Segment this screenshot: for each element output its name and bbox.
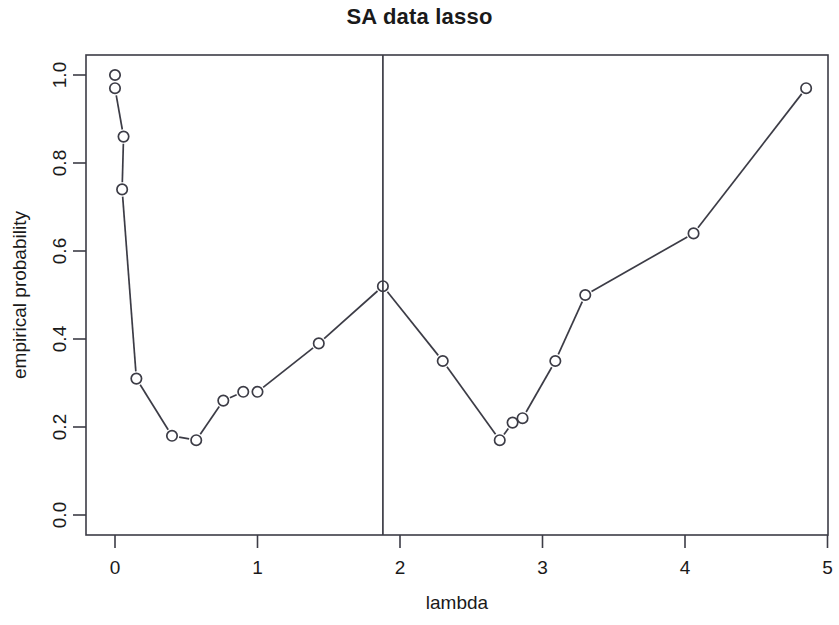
series-segment xyxy=(116,95,122,129)
data-point-marker xyxy=(801,83,811,93)
data-point-marker xyxy=(110,83,120,93)
series-segment xyxy=(387,292,438,356)
x-axis-label: lambda xyxy=(426,592,489,613)
data-point-marker xyxy=(110,70,120,80)
data-series xyxy=(110,70,812,446)
x-axis-ticks: 012345 xyxy=(110,535,833,578)
data-point-marker xyxy=(438,356,448,366)
x-tick-label: 1 xyxy=(252,557,263,578)
data-point-marker xyxy=(252,387,262,397)
series-segment xyxy=(200,407,219,435)
series-segment xyxy=(324,291,377,339)
plot-area: 012345 0.00.20.40.60.81.0 lambda empiric… xyxy=(0,0,839,625)
series-segment xyxy=(122,144,123,182)
x-tick-label: 2 xyxy=(395,557,406,578)
series-segment xyxy=(140,385,168,430)
series-segment xyxy=(526,367,552,412)
data-point-marker xyxy=(167,431,177,441)
series-segment xyxy=(263,348,313,387)
data-point-marker xyxy=(191,435,201,445)
x-tick-label: 4 xyxy=(680,557,691,578)
series-segment xyxy=(230,395,237,398)
data-point-marker xyxy=(238,387,248,397)
data-point-marker xyxy=(517,413,527,423)
plot-frame xyxy=(86,55,828,535)
y-axis-label: empirical probability xyxy=(9,211,30,379)
x-tick-label: 3 xyxy=(537,557,548,578)
data-point-marker xyxy=(580,290,590,300)
data-point-marker xyxy=(131,373,141,383)
series-segment xyxy=(447,367,496,435)
y-tick-label: 0.4 xyxy=(49,325,70,352)
y-axis-ticks: 0.00.20.40.60.81.0 xyxy=(49,62,86,528)
series-segment xyxy=(698,94,802,228)
data-point-marker xyxy=(118,131,128,141)
series-segment xyxy=(123,197,136,372)
series-segment xyxy=(558,302,582,355)
x-tick-label: 5 xyxy=(822,557,833,578)
series-segment xyxy=(592,237,688,291)
y-tick-label: 1.0 xyxy=(49,62,70,88)
y-tick-label: 0.2 xyxy=(49,414,70,440)
y-tick-label: 0.6 xyxy=(49,238,70,264)
data-point-marker xyxy=(688,228,698,238)
y-tick-label: 0.8 xyxy=(49,150,70,176)
data-point-marker xyxy=(507,417,517,427)
chart-canvas: SA data lasso 012345 0.00.20.40.60.81.0 … xyxy=(0,0,839,625)
data-point-marker xyxy=(495,435,505,445)
series-segment xyxy=(179,437,189,439)
data-point-marker xyxy=(117,184,127,194)
series-segment xyxy=(504,428,508,434)
x-tick-label: 0 xyxy=(110,557,121,578)
data-point-marker xyxy=(218,395,228,405)
data-point-marker xyxy=(550,356,560,366)
data-point-marker xyxy=(314,338,324,348)
y-tick-label: 0.0 xyxy=(49,502,70,528)
